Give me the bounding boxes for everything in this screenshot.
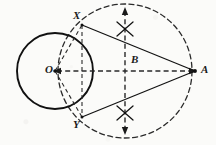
radius-OY bbox=[55, 71, 82, 117]
label-external-point-A: A bbox=[201, 64, 208, 75]
radius-OX bbox=[55, 25, 82, 71]
point-dot-A bbox=[193, 69, 197, 73]
geometry-figure: O B A X Y bbox=[0, 0, 216, 145]
point-dot-Y bbox=[81, 116, 84, 119]
figure-canvas bbox=[0, 0, 216, 145]
point-dot-O bbox=[53, 69, 56, 72]
label-center-O: O bbox=[45, 64, 53, 75]
tangent-line-AY bbox=[82, 71, 195, 117]
tangent-line-AX bbox=[82, 25, 195, 71]
label-midpoint-B: B bbox=[131, 54, 138, 65]
point-dot-X bbox=[81, 24, 84, 27]
bisector-arrow-top bbox=[122, 7, 128, 15]
label-tangent-point-X: X bbox=[73, 10, 80, 21]
label-tangent-point-Y: Y bbox=[73, 119, 80, 130]
bisector-arrow-bottom bbox=[122, 127, 128, 135]
